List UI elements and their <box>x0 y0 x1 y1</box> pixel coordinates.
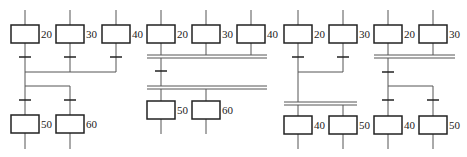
step-box <box>102 25 130 43</box>
step-label: 20 <box>41 28 53 40</box>
step-box <box>56 115 84 133</box>
step-label: 20 <box>314 28 326 40</box>
step-label: 50 <box>177 104 189 116</box>
step-box <box>56 25 84 43</box>
step-label: 50 <box>41 118 53 130</box>
step-label: 50 <box>359 119 371 131</box>
step-label: 20 <box>177 28 189 40</box>
step-label: 40 <box>314 119 326 131</box>
step-box <box>147 101 175 119</box>
step-label: 60 <box>222 104 234 116</box>
step-box <box>11 25 39 43</box>
step-box <box>192 101 220 119</box>
step-label: 30 <box>222 28 234 40</box>
step-label: 30 <box>449 28 461 40</box>
step-label: 60 <box>86 118 98 130</box>
step-label: 20 <box>404 28 416 40</box>
step-box <box>11 115 39 133</box>
step-box <box>284 116 312 134</box>
step-box <box>374 25 402 43</box>
step-label: 40 <box>267 28 279 40</box>
step-box <box>284 25 312 43</box>
step-box <box>419 25 447 43</box>
step-label: 30 <box>359 28 371 40</box>
step-label: 40 <box>132 28 144 40</box>
step-box <box>329 25 357 43</box>
step-box <box>329 116 357 134</box>
step-box <box>237 25 265 43</box>
step-box <box>419 116 447 134</box>
sfc-diagram: 20 30 40 50 60 20 30 40 50 60 20 30 40 5… <box>0 0 467 157</box>
step-box <box>374 116 402 134</box>
step-label: 40 <box>404 119 416 131</box>
step-label: 30 <box>86 28 98 40</box>
step-label: 50 <box>449 119 461 131</box>
step-box <box>192 25 220 43</box>
step-box <box>147 25 175 43</box>
